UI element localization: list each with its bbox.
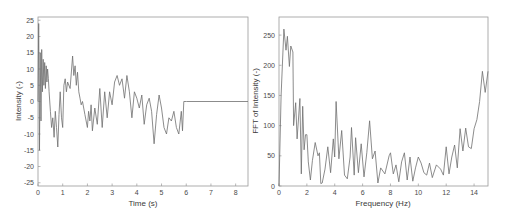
y-tick-label: -25 — [24, 179, 34, 186]
y-tick-label: 20 — [26, 33, 34, 40]
x-tick-label: 3 — [110, 189, 114, 196]
y-tick-label: 0 — [30, 98, 34, 105]
figure: -25-20-15-10-50510152025 012345678 Time … — [0, 0, 505, 219]
y-tick-label: 100 — [263, 122, 275, 129]
left-y-label: Intensity (-) — [14, 81, 23, 121]
x-tick-label: 2 — [85, 189, 89, 196]
x-tick-label: 1 — [61, 189, 65, 196]
left-x-label: Time (s) — [128, 199, 157, 208]
y-tick-label: 15 — [26, 49, 34, 56]
y-tick-label: 5 — [30, 82, 34, 89]
y-tick-label: 10 — [26, 66, 34, 73]
y-tick-label: 250 — [263, 32, 275, 39]
x-tick-label: 0 — [36, 189, 40, 196]
y-tick-label: -10 — [24, 131, 34, 138]
y-tick-label: 150 — [263, 92, 275, 99]
x-tick-label: 6 — [184, 189, 188, 196]
y-tick-label: 0 — [271, 183, 275, 190]
y-tick-label: -5 — [28, 114, 34, 121]
x-tick-label: 0 — [277, 189, 281, 196]
x-tick-label: 12 — [442, 189, 450, 196]
x-tick-label: 5 — [160, 189, 164, 196]
right-x-label: Frequency (Hz) — [355, 199, 410, 208]
x-tick-label: 4 — [333, 189, 337, 196]
x-tick-label: 14 — [470, 189, 478, 196]
y-tick-label: 50 — [267, 152, 275, 159]
x-tick-label: 2 — [305, 189, 309, 196]
x-tick-label: 7 — [209, 189, 213, 196]
x-tick-label: 8 — [389, 189, 393, 196]
right-y-label: FFT of Intensity (-) — [251, 68, 260, 134]
x-tick-label: 4 — [135, 189, 139, 196]
y-tick-label: -20 — [24, 163, 34, 170]
frequency-domain-plot: 050100150200250 02468101214 Frequency (H… — [251, 17, 488, 208]
y-tick-label: 200 — [263, 62, 275, 69]
x-tick-label: 10 — [414, 189, 422, 196]
x-tick-label: 8 — [234, 189, 238, 196]
y-tick-label: 25 — [26, 17, 34, 24]
y-tick-label: -15 — [24, 147, 34, 154]
x-tick-label: 6 — [361, 189, 365, 196]
time-domain-plot: -25-20-15-10-50510152025 012345678 Time … — [14, 17, 248, 208]
